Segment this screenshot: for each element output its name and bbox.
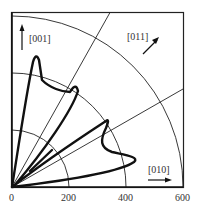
tick-label-600: 600 <box>175 193 190 203</box>
polar-chart <box>0 0 199 209</box>
tick-label-0: 0 <box>9 193 14 203</box>
arc-400 <box>12 73 126 187</box>
arrow-001-icon <box>20 24 25 50</box>
direction-label-011: [011] <box>127 32 148 42</box>
arrow-010-icon <box>148 178 172 183</box>
polar-curve <box>12 56 135 187</box>
tick-label-400: 400 <box>118 193 133 203</box>
direction-label-010: [010] <box>148 165 170 175</box>
tick-label-200: 200 <box>61 193 76 203</box>
direction-label-001: [001] <box>29 34 51 44</box>
